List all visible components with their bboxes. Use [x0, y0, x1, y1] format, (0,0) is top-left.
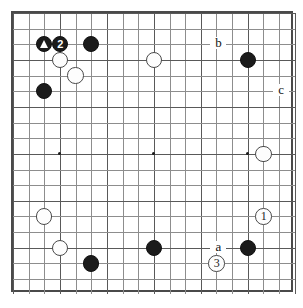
grid-line-horizontal	[13, 232, 295, 233]
grid-line-horizontal	[13, 263, 295, 264]
black-stone[interactable]	[146, 240, 162, 256]
go-diagram: 213 bca	[0, 0, 303, 308]
move-number: 3	[214, 257, 220, 269]
grid-line-horizontal	[13, 91, 295, 92]
grid-line-horizontal	[13, 123, 295, 124]
black-stone[interactable]	[83, 255, 99, 271]
black-stone[interactable]	[240, 240, 256, 256]
move-number: 1	[261, 210, 267, 222]
black-stone[interactable]	[36, 36, 52, 52]
grid-line-horizontal	[13, 76, 295, 77]
triangle-mark-icon	[40, 40, 48, 48]
grid-line-horizontal	[13, 216, 295, 217]
grid-line-horizontal	[13, 138, 295, 139]
point-label-b[interactable]: b	[210, 37, 226, 49]
grid-line-horizontal	[13, 201, 295, 202]
grid-line-horizontal	[13, 29, 295, 30]
grid-line-horizontal	[13, 185, 295, 186]
point-label-c[interactable]: c	[273, 84, 289, 96]
grid-line-horizontal	[13, 13, 295, 14]
white-stone[interactable]	[255, 146, 271, 162]
white-stone[interactable]	[52, 52, 68, 68]
white-stone[interactable]	[36, 208, 52, 224]
white-stone[interactable]	[52, 240, 68, 256]
black-stone[interactable]: 2	[52, 36, 68, 52]
grid-line-horizontal	[13, 279, 295, 280]
move-number: 2	[57, 39, 63, 50]
white-stone[interactable]	[67, 67, 83, 83]
white-stone[interactable]	[146, 52, 162, 68]
black-stone[interactable]	[36, 83, 52, 99]
point-label-a[interactable]: a	[210, 241, 226, 253]
grid-line-horizontal	[13, 107, 295, 108]
white-stone[interactable]: 1	[255, 208, 271, 224]
white-stone[interactable]: 3	[208, 255, 224, 271]
grid-line-vertical	[295, 13, 296, 294]
black-stone[interactable]	[83, 36, 99, 52]
go-board[interactable]: 213 bca	[11, 11, 293, 292]
grid-line-horizontal	[13, 170, 295, 171]
black-stone[interactable]	[240, 52, 256, 68]
